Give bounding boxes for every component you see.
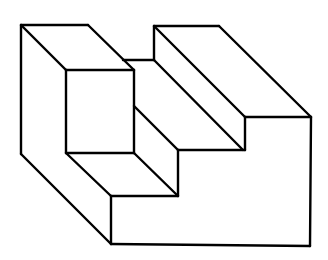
edge-line — [111, 244, 310, 246]
edge-line — [154, 60, 243, 150]
edge-line — [66, 153, 111, 196]
edge-line — [134, 106, 178, 150]
edge-line — [134, 153, 178, 196]
edge-line — [88, 25, 134, 70]
edge-line — [21, 154, 111, 244]
edge-line — [21, 25, 66, 70]
staircase-drawing — [0, 0, 328, 260]
edge-line — [310, 117, 311, 246]
staircase-figure — [0, 0, 328, 260]
